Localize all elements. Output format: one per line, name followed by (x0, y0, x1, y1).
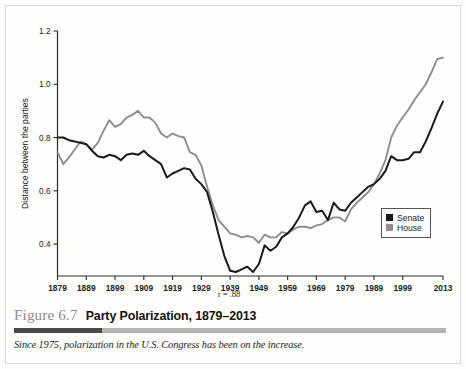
figure-number: Figure 6.7 (14, 307, 78, 324)
legend-swatch-senate (386, 214, 393, 221)
x-tick-label: 1909 (134, 283, 153, 293)
figure-caption-block: Figure 6.7 Party Polarization, 1879–2013… (14, 307, 452, 350)
legend-label-senate: Senate (397, 214, 424, 223)
legend-item-senate[interactable]: Senate (386, 214, 424, 223)
data-series-group (58, 58, 444, 272)
caption-rule-bar (14, 328, 446, 333)
figure-title: Party Polarization, 1879–2013 (86, 309, 257, 323)
x-tick-label: 1879 (48, 283, 67, 293)
caption-note: Since 1975, polarization in the U.S. Con… (14, 339, 452, 350)
y-tick-label: 0.6 (39, 187, 51, 196)
legend-swatch-house (386, 224, 393, 231)
legend-label-house: House (397, 224, 422, 233)
x-tick-label: 1959 (278, 283, 297, 293)
x-axis-tick-labels: 1879188918991909191919291939194919591969… (48, 283, 452, 293)
legend-item-house[interactable]: House (386, 224, 424, 233)
polarization-line-chart: 0.40.60.81.01.2 187918891899190919191929… (0, 0, 466, 300)
x-tick-label: 1949 (250, 283, 269, 293)
caption-headline: Figure 6.7 Party Polarization, 1879–2013 (14, 307, 452, 324)
y-tick-label: 1.2 (39, 27, 51, 36)
x-tick-label: 1919 (163, 283, 182, 293)
x-tick-label: 1969 (307, 283, 326, 293)
axes-group (58, 31, 444, 276)
x-tick-label: 1989 (365, 283, 384, 293)
chart-plot-area: 0.40.60.81.01.2 187918891899190919191929… (0, 0, 466, 300)
figure-container: 0.40.60.81.01.2 187918891899190919191929… (0, 0, 466, 369)
x-tick-label: 1929 (192, 283, 211, 293)
correlation-annotation: r = .88 (218, 289, 241, 299)
chart-legend[interactable]: Senate House (381, 208, 431, 238)
y-tick-label: 1.0 (39, 80, 51, 89)
x-tick-label: 1899 (106, 283, 125, 293)
y-tick-label: 0.8 (39, 134, 51, 143)
y-axis-title: Distance between the parties (20, 98, 30, 209)
y-tick-label: 0.4 (39, 240, 51, 249)
x-tick-label: 1999 (393, 283, 412, 293)
x-tick-label: 2013 (434, 283, 453, 293)
x-tick-label: 1889 (77, 283, 96, 293)
y-axis-tick-labels: 0.40.60.81.01.2 (39, 27, 51, 249)
x-tick-label: 1979 (336, 283, 355, 293)
